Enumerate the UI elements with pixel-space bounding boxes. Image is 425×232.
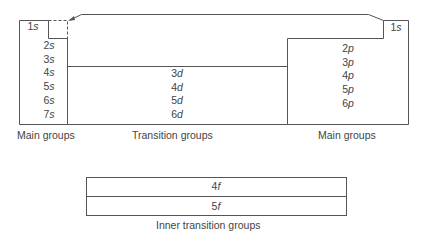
subshell-letter: f <box>217 180 220 192</box>
s-block-orbital: 7s <box>29 108 69 120</box>
s-block-orbital: 4s <box>29 66 69 78</box>
f-block-orbital: 5f <box>196 200 236 212</box>
subshell-letter: d <box>177 94 183 106</box>
d-block-orbital: 5d <box>157 94 197 106</box>
subshell-letter: p <box>348 69 354 81</box>
subshell-letter: f <box>217 200 220 212</box>
subshell-letter: s <box>49 80 54 92</box>
arrow-head-icon <box>68 16 75 21</box>
s-block-top-orbital: 1s <box>13 20 53 32</box>
p-block-orbital: 2p <box>328 42 368 54</box>
f-block-caption: Inner transition groups <box>156 219 260 231</box>
s-block-caption: Main groups <box>17 129 75 141</box>
subshell-letter: s <box>49 108 54 120</box>
p-block-top-orbital: 1s <box>376 21 416 33</box>
subshell-letter: s <box>49 39 54 51</box>
subshell-letter: s <box>49 94 54 106</box>
f-block-orbital: 4f <box>196 180 236 192</box>
p-block-orbital: 5p <box>328 83 368 95</box>
s-block-orbital: 6s <box>29 94 69 106</box>
subshell-letter: d <box>177 67 183 79</box>
d-block-caption: Transition groups <box>132 129 213 141</box>
d-block-orbital: 6d <box>157 108 197 120</box>
subshell-letter: p <box>348 56 354 68</box>
subshell-letter: d <box>177 108 183 120</box>
d-block-orbital: 4d <box>157 81 197 93</box>
s-block-orbital: 2s <box>29 39 69 51</box>
subshell-letter: p <box>348 42 354 54</box>
s-block-orbital: 3s <box>29 53 69 65</box>
subshell-letter: p <box>348 97 354 109</box>
subshell-letter: d <box>177 81 183 93</box>
subshell-letter: s <box>396 21 401 33</box>
s-block-orbital: 5s <box>29 80 69 92</box>
p-block-orbital: 6p <box>328 97 368 109</box>
d-block-orbital: 3d <box>157 67 197 79</box>
subshell-letter: s <box>49 53 54 65</box>
subshell-letter: p <box>348 83 354 95</box>
subshell-letter: s <box>49 66 54 78</box>
subshell-letter: s <box>33 20 38 32</box>
helium-arrow-line <box>70 15 384 21</box>
p-block-orbital: 3p <box>328 56 368 68</box>
p-block-orbital: 4p <box>328 69 368 81</box>
p-block-caption: Main groups <box>318 129 376 141</box>
